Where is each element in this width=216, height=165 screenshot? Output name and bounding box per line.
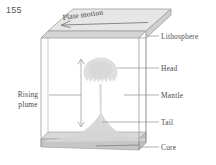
- label-rising-plume: Rising plume: [6, 90, 50, 110]
- mantle-plume-diagram: [0, 0, 216, 165]
- label-core: Core: [161, 143, 176, 152]
- label-head: Head: [161, 64, 177, 73]
- label-mantle: Mantle: [161, 91, 183, 100]
- label-tail: Tail: [161, 118, 173, 127]
- label-lithosphere: Lithosphere: [161, 32, 199, 41]
- label-rising-plume-line2: plume: [18, 100, 37, 109]
- plume-head: [84, 58, 118, 83]
- figure-page: 155: [0, 0, 216, 165]
- label-rising-plume-line1: Rising: [18, 90, 39, 99]
- mantle-convection-arrow: [78, 59, 84, 127]
